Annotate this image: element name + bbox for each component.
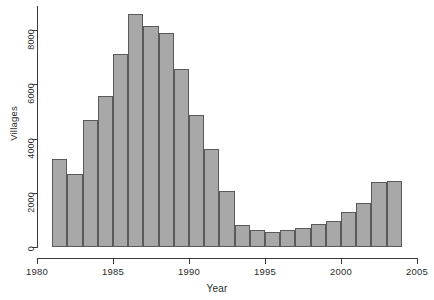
x-axis-title: Year	[0, 283, 434, 294]
y-tick-label: 4000	[26, 138, 36, 159]
villages-per-year-bar-chart: 02000400060008000 1980198519901995200020…	[0, 0, 434, 300]
x-axis-line	[37, 258, 418, 259]
x-tick-label: 1980	[26, 266, 48, 277]
bar	[250, 230, 265, 247]
bar	[280, 230, 295, 247]
bar	[341, 212, 356, 247]
x-tick-mark	[417, 259, 418, 264]
x-tick-mark	[189, 259, 190, 264]
y-tick-label: 2000	[26, 192, 36, 213]
bar	[143, 26, 158, 247]
x-tick-label: 1995	[254, 266, 276, 277]
bar	[83, 120, 98, 247]
bar	[371, 182, 386, 247]
bar	[235, 225, 250, 247]
x-tick-mark	[113, 259, 114, 264]
bar	[265, 232, 280, 247]
y-tick-label: 8000	[26, 29, 36, 50]
bar	[113, 54, 128, 247]
x-tick-mark	[341, 259, 342, 264]
x-tick-mark	[37, 259, 38, 264]
x-tick-mark	[265, 259, 266, 264]
bar	[387, 181, 402, 247]
bar	[159, 33, 174, 247]
x-tick-label: 2000	[330, 266, 352, 277]
bar	[174, 69, 189, 247]
bar	[189, 115, 204, 247]
bar	[128, 14, 143, 247]
y-axis-line	[37, 6, 38, 248]
bar	[311, 224, 326, 247]
bar	[356, 203, 371, 247]
x-tick-label: 2005	[406, 266, 428, 277]
y-tick-label: 6000	[26, 83, 36, 104]
y-tick-label: 0	[26, 246, 36, 251]
x-tick-label: 1985	[102, 266, 124, 277]
bars-layer	[43, 5, 415, 247]
bar	[295, 228, 310, 247]
bar	[98, 96, 113, 247]
x-tick-label: 1990	[178, 266, 200, 277]
bar	[52, 159, 67, 247]
bar	[204, 149, 219, 247]
bar	[67, 174, 82, 247]
y-axis-title: Villages	[8, 106, 19, 141]
bar	[219, 191, 234, 247]
bar	[326, 221, 341, 247]
